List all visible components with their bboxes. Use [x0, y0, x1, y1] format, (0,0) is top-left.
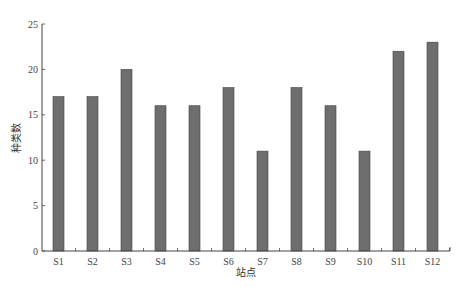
- x-tick-label: S8: [291, 256, 302, 267]
- bar-s2: [87, 97, 98, 251]
- x-tick-label: S7: [257, 256, 268, 267]
- y-tick-label: 10: [28, 155, 38, 166]
- bar-s11: [393, 51, 404, 251]
- bar-s9: [325, 106, 336, 251]
- y-tick-label: 0: [33, 246, 38, 257]
- bar-s8: [291, 88, 302, 251]
- x-tick-label: S3: [121, 256, 132, 267]
- x-axis-title: 站点: [236, 266, 256, 278]
- bar-s10: [359, 151, 370, 251]
- x-tick-label: S10: [357, 256, 373, 267]
- y-tick-label: 15: [28, 109, 38, 120]
- x-tick-label: S9: [325, 256, 336, 267]
- bar-s3: [121, 69, 132, 251]
- x-tick-label: S6: [223, 256, 234, 267]
- bar-s5: [189, 106, 200, 251]
- bar-s4: [155, 106, 166, 251]
- y-tick-label: 5: [33, 200, 38, 211]
- bars-group: [53, 42, 438, 251]
- x-tick-label: S2: [87, 256, 98, 267]
- bar-s12: [427, 42, 438, 251]
- x-tick-label: S5: [189, 256, 200, 267]
- x-tick-label: S11: [391, 256, 406, 267]
- x-tick-label: S1: [53, 256, 64, 267]
- bar-chart: S1S2S3S4S5S6S7S8S9S10S11S120510152025 站点…: [0, 0, 466, 290]
- bar-s1: [53, 97, 64, 251]
- x-tick-label: S4: [155, 256, 166, 267]
- bar-s6: [223, 88, 234, 251]
- x-tick-label: S12: [425, 256, 441, 267]
- bar-s7: [257, 151, 268, 251]
- y-axis-title: 种类数: [10, 123, 22, 153]
- y-tick-label: 25: [28, 19, 38, 30]
- y-tick-label: 20: [28, 64, 38, 75]
